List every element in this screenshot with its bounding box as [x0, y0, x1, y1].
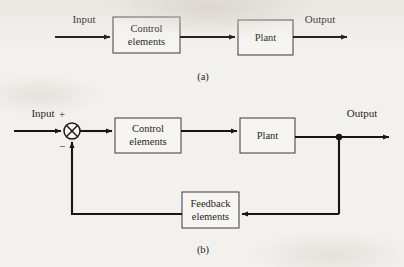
- panel-b-output-label: Output: [347, 107, 378, 119]
- panel-a-input-label: Input: [72, 13, 95, 25]
- panel-a-caption: (a): [197, 71, 209, 83]
- panel-b-feedback-elements-label-line1: Feedback: [190, 198, 231, 209]
- panel-b-feedback-elements-label-line2: elements: [192, 211, 229, 222]
- panel-b-plant-label: Plant: [257, 130, 279, 141]
- diagram-canvas: Control elements Plant Input Output (a): [0, 0, 404, 267]
- control-system-block-diagram-figure: Control elements Plant Input Output (a): [0, 0, 404, 267]
- summing-junction-plus-sign: +: [59, 108, 65, 120]
- panel-b-control-elements-label-line1: Control: [132, 123, 164, 134]
- panel-a-control-elements-label-line2: elements: [128, 36, 165, 47]
- panel-a: Control elements Plant Input Output (a): [55, 13, 347, 83]
- panel-a-plant-label: Plant: [255, 32, 277, 43]
- summing-junction-minus-sign: −: [59, 140, 65, 152]
- panel-b-input-label: Input: [31, 107, 54, 119]
- panel-a-output-label: Output: [305, 13, 336, 25]
- panel-b-control-elements-label-line2: elements: [129, 136, 166, 147]
- panel-b-caption: (b): [197, 244, 210, 256]
- panel-a-control-elements-label-line1: Control: [130, 23, 162, 34]
- panel-b: + − Control elements Plant: [14, 107, 389, 256]
